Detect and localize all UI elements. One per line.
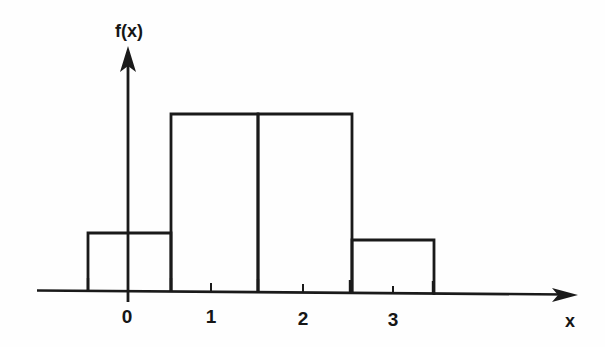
bar-bin-1 <box>171 114 258 292</box>
histogram-bars-group <box>88 114 434 295</box>
x-tick-label-1: 1 <box>206 306 217 327</box>
axis-labels-group: f(x) x <box>115 21 575 331</box>
y-axis-label: f(x) <box>115 21 143 41</box>
x-tick-labels-group: 0 1 2 3 <box>122 306 399 330</box>
bar-bin-0 <box>88 233 171 291</box>
axes-group <box>37 46 578 302</box>
x-axis-line <box>37 291 566 295</box>
x-tick-label-2: 2 <box>298 308 309 329</box>
bar-bin-2 <box>258 114 352 293</box>
x-tick-label-3: 3 <box>388 309 399 330</box>
histogram-figure: f(x) x 0 1 2 3 <box>0 0 605 347</box>
x-axis-label: x <box>565 311 575 331</box>
chart-canvas: f(x) x 0 1 2 3 <box>0 0 605 347</box>
x-tick-label-0: 0 <box>122 306 133 327</box>
